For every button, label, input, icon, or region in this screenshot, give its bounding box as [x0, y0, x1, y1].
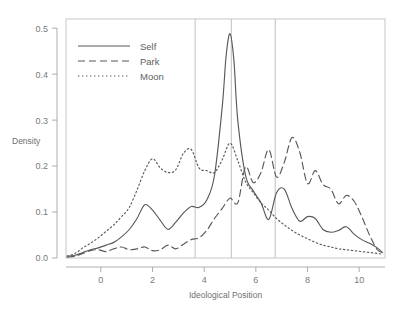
x-tick-label-8: 8 [305, 275, 310, 285]
y-axis-title: Density [12, 136, 41, 146]
legend-label-moon: Moon [140, 71, 164, 82]
x-tick-label-4: 4 [202, 275, 207, 285]
density-plot-svg: 0246810 0.00.10.20.30.40.5 SelfParkMoon … [0, 0, 403, 312]
reference-lines-group [195, 19, 275, 258]
clipped-title-artifact: · · · · · ·· · · ·· · · · · ·· · · · · ·… [28, 0, 358, 5]
x-axis-group: 0246810 [66, 267, 385, 285]
y-tick-label-0.4: 0.4 [35, 70, 48, 80]
x-tick-label-2: 2 [150, 275, 155, 285]
y-tick-label-0.1: 0.1 [35, 207, 48, 217]
legend-label-self: Self [140, 41, 157, 52]
legend-label-park: Park [140, 56, 160, 67]
series-line-park [67, 137, 382, 257]
series-line-moon [67, 143, 382, 256]
legend-group: SelfParkMoon [78, 41, 164, 82]
plot-frame [66, 19, 385, 258]
x-tick-label-6: 6 [253, 275, 258, 285]
series-group [67, 34, 382, 257]
x-tick-label-0: 0 [98, 275, 103, 285]
y-tick-label-0.2: 0.2 [35, 161, 48, 171]
x-axis-title: Ideological Position [189, 290, 263, 300]
plot-frame-group [66, 19, 385, 258]
series-line-self [67, 34, 382, 256]
y-tick-label-0.3: 0.3 [35, 116, 48, 126]
x-tick-label-10: 10 [354, 275, 364, 285]
density-chart: · · · · · ·· · · ·· · · · · ·· · · · · ·… [0, 0, 403, 312]
y-tick-label-0.5: 0.5 [35, 24, 48, 34]
y-tick-label-0.0: 0.0 [35, 253, 48, 263]
